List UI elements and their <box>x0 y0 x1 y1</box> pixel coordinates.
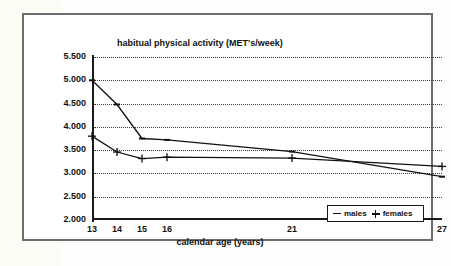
x-tick-label: 21 <box>287 224 297 234</box>
x-tick-label: 16 <box>162 224 172 234</box>
y-tick-label: 2.000 <box>42 214 86 224</box>
legend-entry-males: males <box>333 209 367 218</box>
figure-page: habitual physical activity (MET's/week) … <box>0 0 451 266</box>
legend: males females <box>327 205 424 222</box>
figure-frame: habitual physical activity (MET's/week) … <box>22 13 433 241</box>
y-tick-label: 3.000 <box>42 167 86 177</box>
plot-area: 5.5005.0004.5004.0003.5003.0002.5002.000… <box>92 57 442 220</box>
data-point-females <box>163 153 171 161</box>
chart-title: habitual physical activity (MET's/week) <box>117 38 283 48</box>
series-layer <box>92 57 442 220</box>
series-line-males <box>92 80 442 176</box>
y-tick-label: 4.500 <box>42 98 86 108</box>
data-point-females <box>88 132 96 140</box>
data-point-females <box>113 148 121 156</box>
legend-entry-females: females <box>372 209 413 218</box>
x-tick-label: 14 <box>112 224 122 234</box>
plus-marker-icon <box>372 210 380 218</box>
legend-label-females: females <box>383 209 413 218</box>
data-point-females <box>288 154 296 162</box>
x-tick-label: 15 <box>137 224 147 234</box>
y-tick-label: 3.500 <box>42 144 86 154</box>
y-tick-label: 5.000 <box>42 74 86 84</box>
series-line-females <box>92 136 442 166</box>
y-tick-label: 5.500 <box>42 51 86 61</box>
x-tick-label: 13 <box>87 224 97 234</box>
dash-marker-icon <box>333 213 341 214</box>
data-point-females <box>438 162 446 170</box>
y-tick-label: 2.500 <box>42 191 86 201</box>
legend-label-males: males <box>344 209 367 218</box>
x-axis-title: calendar age (years) <box>176 237 263 247</box>
y-tick-label: 4.000 <box>42 121 86 131</box>
data-point-females <box>138 155 146 163</box>
x-tick-label: 27 <box>437 224 447 234</box>
